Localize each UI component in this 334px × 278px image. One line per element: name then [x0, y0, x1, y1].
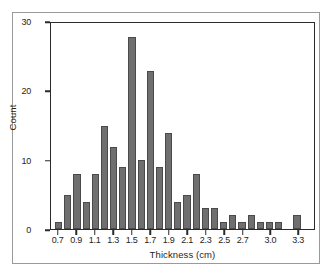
bar-slot [118, 23, 127, 229]
histogram-bar [92, 174, 99, 229]
bar-slot [192, 23, 201, 229]
histogram-bar [275, 222, 282, 229]
bar-slot [292, 23, 301, 229]
histogram-bar [266, 222, 273, 229]
histogram-bar [128, 37, 135, 229]
x-tick-label: 0.9 [70, 236, 82, 245]
bar-slot [82, 23, 91, 229]
histogram-bar [110, 147, 117, 229]
bar-slot [265, 23, 274, 229]
histogram-bar [147, 71, 154, 229]
x-tick-label: 1.3 [107, 236, 119, 245]
bar-slot [155, 23, 164, 229]
y-tick-label: 30 [21, 18, 31, 27]
histogram-bar [73, 174, 80, 229]
plot-area [50, 22, 315, 230]
histogram-bar [257, 222, 264, 229]
x-tick-label: 0.7 [52, 236, 64, 245]
bar-slot [137, 23, 146, 229]
histogram-bar [64, 195, 71, 229]
y-axis: Count 0102030 [0, 0, 50, 278]
histogram-bar [101, 126, 108, 229]
bar-slot [100, 23, 109, 229]
histogram-bar [202, 208, 209, 229]
x-tick-label: 2.7 [237, 236, 249, 245]
histogram-bar [211, 208, 218, 229]
bar-slot [146, 23, 155, 229]
x-tick-label: 1.9 [163, 236, 175, 245]
bar-slot [237, 23, 246, 229]
histogram-bar [238, 222, 245, 229]
bar-slot [173, 23, 182, 229]
histogram-bar [83, 202, 90, 229]
x-tick-label: 3.0 [264, 236, 276, 245]
bar-slot [228, 23, 237, 229]
histogram-bar [248, 215, 255, 229]
x-tick-label: 1.5 [126, 236, 138, 245]
bar-slot [210, 23, 219, 229]
bar-slot [247, 23, 256, 229]
histogram-bars [51, 23, 314, 229]
y-axis-label: Count [7, 88, 18, 148]
histogram-bar [220, 222, 227, 229]
histogram-bar [138, 160, 145, 229]
bar-slot [127, 23, 136, 229]
bar-slot [164, 23, 173, 229]
x-tick-label: 1.1 [89, 236, 101, 245]
x-tick-label: 2.5 [218, 236, 230, 245]
bar-slot [63, 23, 72, 229]
bar-slot [274, 23, 283, 229]
bar-slot [256, 23, 265, 229]
y-tick-label: 0 [26, 226, 31, 235]
bar-slot [72, 23, 81, 229]
x-tick-label: 2.3 [200, 236, 212, 245]
figure-container: Count 0102030 0.70.91.11.31.51.71.92.12.… [0, 0, 334, 278]
bar-slot [109, 23, 118, 229]
histogram-bar [55, 222, 62, 229]
y-tick-label: 10 [21, 156, 31, 165]
histogram-bar [119, 167, 126, 229]
bar-slot [91, 23, 100, 229]
bar-slot [283, 23, 292, 229]
x-tick-label: 3.3 [292, 236, 304, 245]
x-tick-label: 1.7 [144, 236, 156, 245]
histogram-bar [193, 174, 200, 229]
bar-slot [219, 23, 228, 229]
y-tick-label: 20 [21, 87, 31, 96]
x-tick-label: 2.1 [181, 236, 193, 245]
histogram-bar [165, 133, 172, 229]
histogram-bar [174, 202, 181, 229]
bar-slot [54, 23, 63, 229]
bar-slot [302, 23, 311, 229]
histogram-bar [156, 167, 163, 229]
bar-slot [182, 23, 191, 229]
x-axis-label: Thickness (cm) [50, 249, 315, 260]
histogram-bar [183, 195, 190, 229]
histogram-bar [293, 215, 300, 229]
histogram-bar [229, 215, 236, 229]
bar-slot [201, 23, 210, 229]
